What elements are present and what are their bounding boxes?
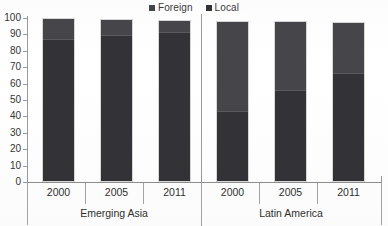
category-cell-separator <box>201 183 202 204</box>
y-tick-label: 10 <box>0 161 21 171</box>
y-tick-label: 40 <box>0 111 21 121</box>
legend-swatch-local <box>206 5 212 11</box>
y-tick-label: 20 <box>0 144 21 154</box>
bar-emerging-asia-2000 <box>42 18 75 182</box>
bar-latin-america-2011 <box>332 22 365 182</box>
y-tick-label: 90 <box>0 29 21 39</box>
category-label-ea-2005: 2005 <box>89 187 144 198</box>
y-tick <box>23 149 27 150</box>
category-cell-separator <box>143 183 144 204</box>
bar-segment-local <box>43 39 74 181</box>
bar-segment-foreign <box>333 23 364 73</box>
bar-segment-local <box>101 35 132 181</box>
y-tick-label: 60 <box>0 79 21 89</box>
category-label-la-2000: 2000 <box>205 187 260 198</box>
category-label-la-2005: 2005 <box>263 187 318 198</box>
group-label-emerging-asia: Emerging Asia <box>27 207 201 219</box>
bar-segment-local <box>159 32 190 181</box>
category-label-la-2011: 2011 <box>321 187 376 198</box>
category-axis-labels: 2000 2005 2011 2000 2005 2011 <box>27 183 382 204</box>
y-tick-label: 80 <box>0 46 21 56</box>
category-cell-separator <box>85 183 86 204</box>
category-label-ea-2011: 2011 <box>147 187 202 198</box>
bar-segment-foreign <box>43 19 74 39</box>
y-tick <box>23 166 27 167</box>
y-tick <box>23 133 27 134</box>
legend-entry-local: Local <box>206 3 239 13</box>
y-tick <box>23 18 27 19</box>
x-axis-end-tick <box>381 176 382 183</box>
bar-segment-local <box>217 111 248 181</box>
y-tick <box>23 34 27 35</box>
y-tick <box>23 116 27 117</box>
group-axis-labels: Emerging Asia Latin America <box>27 204 382 225</box>
bar-emerging-asia-2011 <box>158 20 191 182</box>
y-tick-label: 70 <box>0 62 21 72</box>
category-cell-separator <box>317 183 318 204</box>
y-tick-label: 100 <box>0 13 21 23</box>
y-tick-label: 30 <box>0 128 21 138</box>
y-axis-line <box>27 16 28 184</box>
bar-segment-foreign <box>101 20 132 36</box>
y-tick-label: 0 <box>0 177 21 187</box>
bar-latin-america-2005 <box>274 21 307 182</box>
bar-emerging-asia-2005 <box>100 19 133 182</box>
legend-entry-foreign: Foreign <box>149 3 193 13</box>
category-cell-separator <box>259 183 260 204</box>
bar-segment-local <box>333 73 364 181</box>
legend-label-foreign: Foreign <box>158 3 193 13</box>
plot-area: 100 90 80 70 60 50 40 30 20 10 0 <box>27 18 382 182</box>
group-cell-separator <box>381 204 382 225</box>
category-cell-separator <box>381 183 382 204</box>
chart-legend: Foreign Local <box>0 1 388 15</box>
y-tick <box>23 100 27 101</box>
y-tick <box>23 67 27 68</box>
category-cell-separator <box>27 183 28 204</box>
legend-swatch-foreign <box>149 5 155 11</box>
legend-label-local: Local <box>215 3 239 13</box>
category-label-ea-2000: 2000 <box>31 187 86 198</box>
group-label-latin-america: Latin America <box>201 207 381 219</box>
bar-latin-america-2000 <box>216 21 249 183</box>
stacked-bar-chart: Foreign Local 100 90 80 70 60 50 40 <box>0 0 388 226</box>
y-tick <box>23 51 27 52</box>
bar-segment-local <box>275 90 306 182</box>
y-tick <box>23 84 27 85</box>
bar-segment-foreign <box>217 22 248 111</box>
y-tick-label: 50 <box>0 95 21 105</box>
bar-segment-foreign <box>159 21 190 33</box>
bar-segment-foreign <box>275 22 306 89</box>
